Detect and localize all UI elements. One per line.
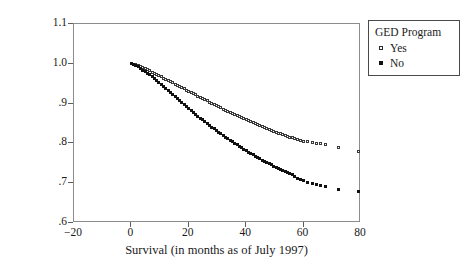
legend-title: GED Program <box>375 25 454 39</box>
y-tick-label: 1.0 <box>27 57 67 69</box>
x-tick-mark <box>130 222 131 227</box>
legend-label-no: No <box>386 56 404 70</box>
survival-chart-figure: Cumulative Percentage Survival .6.7.8.91… <box>0 0 467 264</box>
data-point-yes <box>306 140 309 143</box>
x-tick-mark <box>303 222 304 227</box>
legend-label-yes: Yes <box>386 41 407 55</box>
x-tick-label: 40 <box>223 226 267 238</box>
x-tick-label: 20 <box>166 226 210 238</box>
data-point-no <box>319 184 322 187</box>
data-point-yes <box>302 140 305 143</box>
data-point-no <box>337 188 340 191</box>
y-tick-label: .9 <box>27 97 67 109</box>
data-points-layer <box>74 24 359 221</box>
open-square-marker-icon <box>375 46 386 50</box>
y-tick-label: 1.1 <box>27 17 67 29</box>
data-point-no <box>311 182 314 185</box>
y-tick-mark <box>68 222 73 223</box>
x-axis-label: Survival (in months as of July 1997) <box>73 243 360 258</box>
data-point-yes <box>315 142 318 145</box>
x-tick-mark <box>245 222 246 227</box>
x-tick-label: −20 <box>51 226 95 238</box>
data-point-yes <box>337 146 340 149</box>
data-point-no <box>324 185 327 188</box>
data-point-yes <box>319 142 322 145</box>
y-tick-label: .8 <box>27 136 67 148</box>
data-point-yes <box>357 150 360 153</box>
data-point-yes <box>311 141 314 144</box>
x-tick-label: 0 <box>108 226 152 238</box>
filled-square-marker-icon <box>375 61 386 65</box>
x-tick-mark <box>188 222 189 227</box>
data-point-no <box>306 181 309 184</box>
legend: GED Program Yes No <box>368 20 460 76</box>
data-point-no <box>302 179 305 182</box>
legend-entry-yes[interactable]: Yes <box>375 40 454 55</box>
data-point-yes <box>324 143 327 146</box>
data-point-no <box>357 190 360 193</box>
plot-area <box>73 23 360 222</box>
x-tick-label: 80 <box>338 226 382 238</box>
y-tick-label: .7 <box>27 176 67 188</box>
data-point-no <box>315 183 318 186</box>
legend-entry-no[interactable]: No <box>375 55 454 70</box>
x-tick-label: 60 <box>281 226 325 238</box>
